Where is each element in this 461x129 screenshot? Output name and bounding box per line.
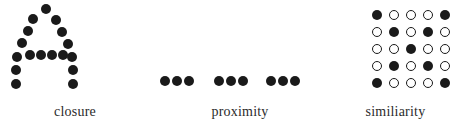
- proximity-dot: [184, 76, 194, 86]
- proximity-dot: [214, 76, 224, 86]
- closure-dot: [25, 50, 36, 61]
- caption-similiarity: similiarity: [330, 104, 461, 120]
- closure-dot: [17, 38, 28, 49]
- closure-dot: [11, 65, 22, 76]
- similarity-dot-open: [423, 78, 433, 88]
- similarity-dot-open: [372, 44, 382, 54]
- similarity-dot-open: [372, 61, 382, 71]
- similarity-dot-open: [440, 27, 450, 37]
- similarity-dot-filled: [389, 61, 399, 71]
- proximity-dot-pattern: [150, 0, 330, 98]
- similarity-dot-filled: [372, 78, 382, 88]
- closure-dot: [28, 14, 39, 25]
- similarity-dot-open: [406, 78, 416, 88]
- similarity-dot-open: [423, 44, 433, 54]
- closure-dot: [41, 4, 52, 15]
- closure-dot: [68, 79, 79, 90]
- similarity-dot-filled: [440, 10, 450, 20]
- proximity-dot: [172, 76, 182, 86]
- closure-dot: [11, 79, 22, 90]
- similarity-dot-open: [389, 10, 399, 20]
- proximity-dot: [226, 76, 236, 86]
- closure-dot: [47, 50, 58, 61]
- similarity-dot-open: [406, 27, 416, 37]
- closure-dot: [12, 52, 23, 63]
- closure-dot: [23, 26, 34, 37]
- similarity-dot-filled: [423, 27, 433, 37]
- panel-similarity: similiarity: [330, 0, 461, 129]
- closure-dot: [67, 52, 78, 63]
- similarity-dot-filled: [372, 10, 382, 20]
- closure-dot-pattern: [0, 0, 150, 98]
- closure-dot: [68, 65, 79, 76]
- similarity-dot-open: [440, 44, 450, 54]
- similarity-dot-filled: [440, 78, 450, 88]
- similarity-dot-open: [389, 44, 399, 54]
- closure-dot: [57, 27, 68, 38]
- closure-dot: [63, 39, 74, 50]
- proximity-dot: [160, 76, 170, 86]
- caption-closure: closure: [0, 104, 150, 120]
- similarity-dot-open: [372, 27, 382, 37]
- proximity-dot: [238, 76, 248, 86]
- similarity-dot-filled: [406, 44, 416, 54]
- closure-dot: [51, 15, 62, 26]
- similarity-dot-open: [440, 61, 450, 71]
- similarity-dot-filled: [389, 27, 399, 37]
- similarity-dot-open: [406, 61, 416, 71]
- panel-closure: closure: [0, 0, 150, 129]
- proximity-dot: [290, 76, 300, 86]
- proximity-dot: [278, 76, 288, 86]
- proximity-dot: [266, 76, 276, 86]
- similarity-dot-filled: [423, 61, 433, 71]
- similarity-dot-grid: [330, 0, 461, 98]
- similarity-dot-open: [389, 78, 399, 88]
- similarity-dot-open: [406, 10, 416, 20]
- panel-proximity: proximity: [150, 0, 330, 129]
- caption-proximity: proximity: [150, 104, 330, 120]
- similarity-dot-open: [423, 10, 433, 20]
- gestalt-principles-figure: closure proximity similiarity: [0, 0, 461, 129]
- closure-dot: [36, 50, 47, 61]
